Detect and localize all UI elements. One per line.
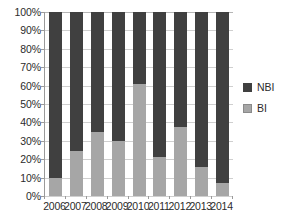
bar-column[interactable] xyxy=(70,12,83,196)
legend-swatch-nbi xyxy=(243,83,252,92)
legend-label: BI xyxy=(257,103,267,114)
bar-column[interactable] xyxy=(174,12,187,196)
x-tick-mark xyxy=(128,196,129,199)
x-tick-label: 2014 xyxy=(210,201,233,212)
x-tick-label: 2011 xyxy=(148,201,170,212)
bar-segment-nbi[interactable] xyxy=(153,12,166,157)
legend-label: NBI xyxy=(257,82,275,93)
y-tick-label: 40% xyxy=(20,117,41,128)
x-tick-mark xyxy=(107,196,108,199)
bar-segment-nbi[interactable] xyxy=(133,12,146,84)
bar-segment-nbi[interactable] xyxy=(49,12,62,178)
bar-segment-nbi[interactable] xyxy=(195,12,208,167)
x-tick-label: 2010 xyxy=(127,201,150,212)
x-tick-label: 2012 xyxy=(168,201,191,212)
bar-segment-nbi[interactable] xyxy=(112,12,125,141)
bar-segment-bi[interactable] xyxy=(153,157,166,196)
x-tick-label: 2008 xyxy=(85,201,108,212)
bar-column[interactable] xyxy=(133,12,146,196)
x-tick-mark xyxy=(232,196,233,199)
x-tick-mark xyxy=(148,196,149,199)
bar-column[interactable] xyxy=(216,12,229,196)
bar-segment-bi[interactable] xyxy=(174,127,187,196)
bar-segment-nbi[interactable] xyxy=(216,12,229,183)
y-tick-label: 100% xyxy=(15,7,41,18)
bar-column[interactable] xyxy=(195,12,208,196)
x-tick-mark xyxy=(86,196,87,199)
y-tick-label: 10% xyxy=(20,172,41,183)
bar-column[interactable] xyxy=(49,12,62,196)
legend-swatch-bi xyxy=(243,104,252,113)
chart-legend: NBIBI xyxy=(243,82,287,124)
x-tick-mark xyxy=(190,196,191,199)
y-tick-label: 0% xyxy=(26,191,41,202)
bar-segment-bi[interactable] xyxy=(133,84,146,196)
bar-segment-bi[interactable] xyxy=(112,141,125,196)
bar-column[interactable] xyxy=(153,12,166,196)
bar-segment-bi[interactable] xyxy=(70,151,83,196)
x-tick-mark xyxy=(65,196,66,199)
x-axis: 200620072008200920102011201220132014 xyxy=(40,201,240,219)
bar-segment-nbi[interactable] xyxy=(174,12,187,127)
x-tick-mark xyxy=(44,196,45,199)
bar-column[interactable] xyxy=(91,12,104,196)
stacked-bar-chart: 0%10%20%30%40%50%60%70%80%90%100% 200620… xyxy=(0,0,287,223)
x-tick-label: 2006 xyxy=(43,201,66,212)
y-tick-label: 90% xyxy=(20,25,41,36)
bar-column[interactable] xyxy=(112,12,125,196)
x-tick-label: 2013 xyxy=(189,201,212,212)
x-tick-mark xyxy=(169,196,170,199)
y-tick-label: 30% xyxy=(20,136,41,147)
bar-segment-bi[interactable] xyxy=(49,178,62,196)
legend-item[interactable]: BI xyxy=(243,103,287,113)
bar-segment-bi[interactable] xyxy=(195,167,208,196)
y-tick-label: 20% xyxy=(20,154,41,165)
x-tick-label: 2007 xyxy=(64,201,87,212)
bar-segment-bi[interactable] xyxy=(91,132,104,196)
y-tick-label: 60% xyxy=(20,80,41,91)
plot-area xyxy=(44,12,233,197)
bar-segment-nbi[interactable] xyxy=(91,12,104,132)
y-tick-label: 70% xyxy=(20,62,41,73)
y-tick-label: 50% xyxy=(20,99,41,110)
bars-layer xyxy=(45,12,233,196)
y-axis: 0%10%20%30%40%50%60%70%80%90%100% xyxy=(0,0,44,223)
legend-item[interactable]: NBI xyxy=(243,82,287,92)
x-tick-mark xyxy=(211,196,212,199)
y-tick-label: 80% xyxy=(20,44,41,55)
x-tick-label: 2009 xyxy=(106,201,129,212)
bar-segment-nbi[interactable] xyxy=(70,12,83,151)
bar-segment-bi[interactable] xyxy=(216,183,229,196)
